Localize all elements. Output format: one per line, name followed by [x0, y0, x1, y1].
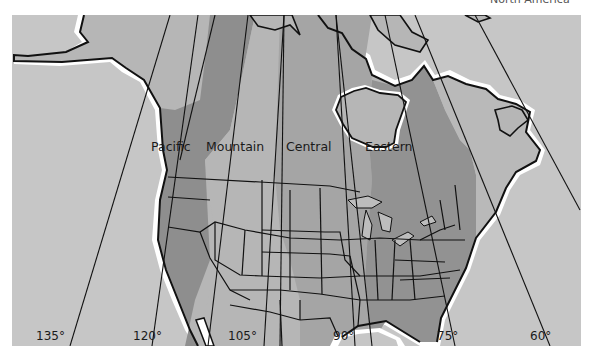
- meridian-label-90: 90°: [333, 329, 354, 343]
- zone-label-eastern: Eastern: [365, 139, 413, 154]
- meridian-label-120: 120°: [133, 329, 162, 343]
- meridian-label-105: 105°: [228, 329, 257, 343]
- map-caption: North America: [490, 0, 570, 6]
- meridian-label-75: 75°: [437, 329, 458, 343]
- zone-label-mountain: Mountain: [206, 139, 264, 154]
- time-zone-map: [12, 15, 581, 346]
- zone-label-central: Central: [286, 139, 332, 154]
- meridian-label-60: 60°: [530, 329, 551, 343]
- meridian-label-135: 135°: [36, 329, 65, 343]
- zone-label-pacific: Pacific: [151, 139, 191, 154]
